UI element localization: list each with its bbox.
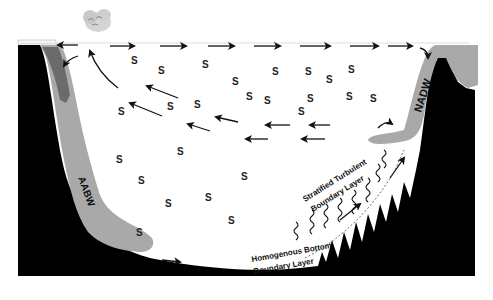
svg-text:S: S [167,101,174,112]
surface-flow-arrows [58,45,428,128]
svg-text:S: S [194,99,201,110]
svg-text:S: S [298,106,305,117]
svg-text:S: S [348,64,355,75]
cloud-icon [83,9,111,32]
svg-text:S: S [116,154,123,165]
svg-text:S: S [118,106,125,117]
svg-text:S: S [346,91,353,102]
ice-shelf [18,40,56,44]
svg-text:S: S [307,93,314,104]
svg-text:S: S [165,198,172,209]
svg-text:S: S [205,192,212,203]
deep-return-arrows [130,86,404,262]
svg-text:S: S [138,175,145,186]
svg-text:S: S [177,146,184,157]
svg-text:S: S [326,74,333,85]
ocean-circulation-diagram: AABW NADW Stratified Turbulent Boundary … [0,0,493,300]
svg-text:S: S [131,55,138,66]
svg-text:S: S [370,93,377,104]
svg-text:S: S [272,66,279,77]
svg-text:S: S [305,66,312,77]
svg-text:S: S [246,91,253,102]
svg-text:S: S [241,171,248,182]
svg-text:S: S [202,59,209,70]
svg-text:S: S [136,227,143,238]
svg-text:S: S [158,65,165,76]
svg-text:S: S [228,215,235,226]
svg-text:S: S [232,76,239,87]
svg-text:S: S [264,95,271,106]
stratification-symbols: S S S S S S S S S S S S S S S S S S S S … [116,55,377,238]
